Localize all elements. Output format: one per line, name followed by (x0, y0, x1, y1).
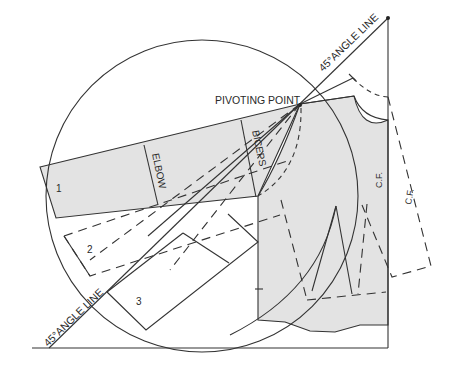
pivoting-point-label: PIVOTING POINT (215, 94, 301, 106)
position-1-label: 1 (56, 183, 62, 194)
cf-dashed-label: C.F. (403, 188, 416, 206)
angle-line-top-label: 45°ANGLE LINE (316, 11, 380, 74)
sleeve-3-top (107, 233, 183, 292)
sleeve-pivot-diagram: PIVOTING POINT 45°ANGLE LINE 45°ANGLE LI… (0, 0, 462, 371)
top-point-dot (386, 16, 390, 20)
position-2-label: 2 (87, 244, 93, 255)
sleeve-2-left (64, 236, 90, 276)
sleeve-position-3 (107, 214, 258, 330)
sleeve-3-side (183, 233, 229, 263)
sleeve-position-2 (64, 215, 280, 276)
angle-line-bottom-label: 45°ANGLE LINE (41, 286, 105, 349)
cf-bodice-label: C.F. (374, 172, 384, 188)
position-3-label: 3 (136, 296, 142, 307)
neckline-dashed (353, 78, 388, 97)
